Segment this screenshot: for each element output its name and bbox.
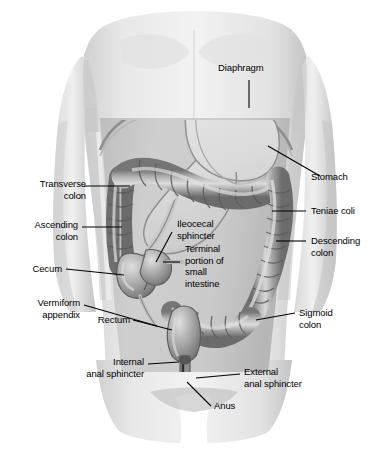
label-ascending-colon: Ascending colon [8,219,78,242]
label-descending-colon: Descending colon [311,235,360,258]
label-sigmoid-colon: Sigmoid colon [299,307,333,330]
label-ileocecal-sphincter: Ileocecal sphincter [177,218,215,241]
rectum-segment [168,306,201,362]
label-rectum: Rectum [76,314,130,326]
label-vermiform-appendix: Vermiform appendix [4,297,80,320]
label-anus: Anus [214,400,235,412]
label-teniae-coli: Teniae coli [311,205,355,217]
anatomy-figure: Transverse colon Ascending colon Cecum V… [0,0,388,451]
label-terminal-ileum: Terminal portion of small intestine [185,243,224,289]
label-diaphragm: Diaphragm [218,62,264,74]
label-internal-anal-sphincter: Internal anal sphincter [52,356,144,379]
ascending-colon-segment [108,178,134,264]
label-cecum: Cecum [8,263,62,275]
label-transverse-colon: Transverse colon [8,178,86,201]
internal-anal-sphincter-ring [179,356,191,365]
label-external-anal-sphincter: External anal sphincter [244,366,302,389]
label-stomach: Stomach [311,171,348,183]
